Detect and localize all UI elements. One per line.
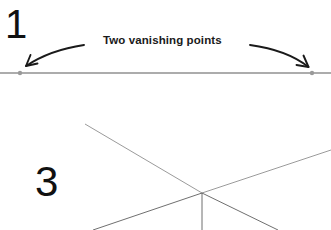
panel-step-three: 3 — [0, 100, 331, 230]
ray-upper-left — [85, 124, 202, 193]
panel-one-graphics — [0, 0, 331, 100]
perspective-diagram-page: 1 Two vanishing points 3 — [0, 0, 331, 230]
ray-lower-right — [202, 193, 278, 230]
panel-step-one: 1 Two vanishing points — [0, 0, 331, 100]
ray-lower-left — [93, 193, 202, 230]
right-pointer-arrow — [250, 45, 309, 67]
caption-two-vanishing-points: Two vanishing points — [103, 34, 222, 46]
step-number-three: 3 — [35, 161, 58, 203]
ray-upper-right — [202, 150, 331, 193]
left-vanishing-point — [18, 71, 22, 75]
right-vanishing-point — [310, 71, 314, 75]
step-number-one: 1 — [5, 4, 26, 44]
left-pointer-arrow — [26, 45, 84, 66]
